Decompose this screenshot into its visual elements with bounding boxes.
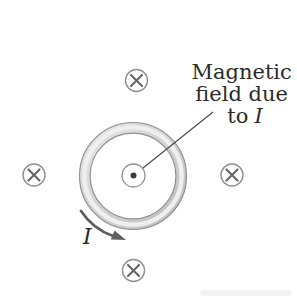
magnetic-field-label: Magnetic field due toI xyxy=(191,60,297,128)
field-into-page-icon-left xyxy=(23,164,45,186)
field-into-page-icon-bottom xyxy=(123,260,145,282)
magnetic-field-diagram: Magnetic field due toI I xyxy=(0,0,297,297)
label-line-2: field due xyxy=(195,82,288,106)
scan-artifact xyxy=(200,290,292,296)
field-into-page-icon-top xyxy=(126,70,148,92)
figure-canvas: Magnetic field due toI I xyxy=(0,0,297,297)
field-into-page-icon-right xyxy=(221,164,243,186)
label-line-3: to xyxy=(227,104,248,128)
label-current-symbol: I xyxy=(253,104,263,128)
label-line-1: Magnetic xyxy=(191,60,291,84)
current-arrowhead-icon xyxy=(111,230,126,240)
center-dot xyxy=(131,173,137,179)
field-out-of-page-icon xyxy=(122,164,145,187)
current-label: I xyxy=(82,224,93,249)
